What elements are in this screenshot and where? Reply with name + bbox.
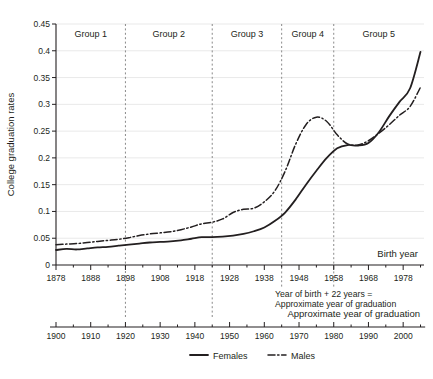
y-tick-label-0: 0 (45, 260, 50, 270)
y-tick-label-1: 0.05 (33, 233, 50, 243)
x-tick-label-3: 1908 (151, 273, 170, 283)
group-label-2: Group 2 (153, 29, 186, 39)
y-tick-label-3: 0.15 (33, 180, 50, 190)
chart-container: 00.050.10.150.20.250.30.350.40.45College… (0, 0, 433, 379)
secondary-x-tick-label-4: 1940 (185, 331, 204, 341)
secondary-x-tick-label-5: 1950 (220, 331, 239, 341)
x-tick-label-6: 1938 (255, 273, 274, 283)
x-tick-label-10: 1978 (394, 273, 413, 283)
secondary-x-tick-label-1: 1910 (81, 331, 100, 341)
secondary-x-axis-title: Approximate year of graduation (287, 308, 420, 319)
secondary-x-tick-label-7: 1970 (290, 331, 309, 341)
x-tick-label-5: 1928 (220, 273, 239, 283)
annotation-line-1: Year of birth + 22 years = (275, 289, 372, 299)
y-tick-label-7: 0.35 (33, 73, 50, 83)
y-tick-label-5: 0.25 (33, 126, 50, 136)
group-label-3: Group 3 (231, 29, 264, 39)
secondary-x-tick-label-9: 1990 (359, 331, 378, 341)
secondary-x-tick-label-0: 1900 (47, 331, 66, 341)
x-axis-title: Birth year (377, 248, 418, 259)
y-tick-label-8: 0.4 (38, 46, 50, 56)
group-label-4: Group 4 (291, 29, 324, 39)
secondary-x-tick-label-3: 1930 (151, 331, 170, 341)
series-line-males (56, 87, 421, 244)
x-tick-label-0: 1878 (47, 273, 66, 283)
y-tick-label-9: 0.45 (33, 19, 50, 29)
y-axis-title: College graduation rates (5, 92, 16, 196)
series-line-females (56, 52, 421, 250)
legend-label-females: Females (213, 351, 248, 361)
x-tick-label-1: 1888 (81, 273, 100, 283)
group-label-5: Group 5 (363, 29, 396, 39)
x-tick-label-7: 1948 (290, 273, 309, 283)
x-tick-label-9: 1968 (359, 273, 378, 283)
legend-label-males: Males (291, 351, 316, 361)
group-label-1: Group 1 (74, 29, 107, 39)
secondary-x-tick-label-2: 1920 (116, 331, 135, 341)
college-graduation-rates-chart: 00.050.10.150.20.250.30.350.40.45College… (0, 0, 433, 379)
x-tick-label-4: 1918 (185, 273, 204, 283)
y-tick-label-2: 0.1 (38, 206, 50, 216)
y-tick-label-4: 0.2 (38, 153, 50, 163)
x-tick-label-2: 1898 (116, 273, 135, 283)
x-tick-label-8: 1958 (324, 273, 343, 283)
secondary-x-tick-label-10: 2000 (394, 331, 413, 341)
y-tick-label-6: 0.3 (38, 99, 50, 109)
secondary-x-tick-label-8: 1980 (324, 331, 343, 341)
secondary-x-tick-label-6: 1960 (255, 331, 274, 341)
